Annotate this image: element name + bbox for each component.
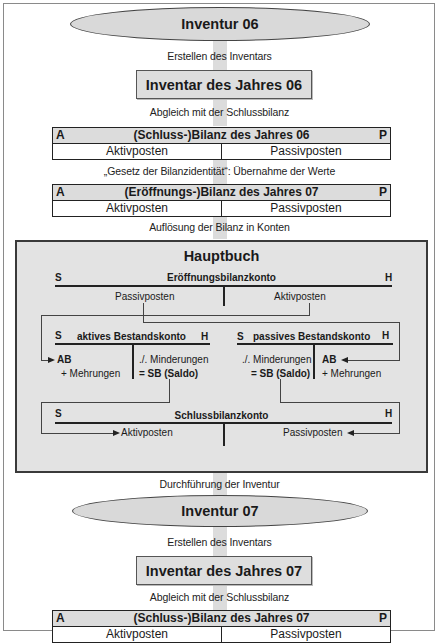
- connector-aktiv-line: [41, 315, 310, 316]
- passiva-marker: P: [379, 611, 387, 625]
- connector-passiv-line: [143, 322, 400, 323]
- connector-sb-aktiv-line: [169, 379, 170, 403]
- step-erstellen-inventar-2: Erstellen des Inventars: [0, 536, 439, 548]
- pbk-ab: AB: [322, 354, 336, 365]
- bilanz-title: (Eröffnungs-)Bilanz des Jahres 07: [53, 185, 390, 199]
- ebk-t-vertical: [223, 287, 225, 306]
- inventur-07-ellipse: Inventur 07: [72, 495, 368, 527]
- bilanz-row: Aktivposten Passivposten: [53, 201, 390, 216]
- passiva-marker: P: [379, 128, 387, 142]
- ebk-title: Eröffnungsbilanzkonto: [17, 272, 426, 283]
- step-abgleich-1: Abgleich mit der Schlussbilanz: [0, 106, 439, 118]
- step-bilanzidentitaet: „Gesetz der Bilanzidentität“: Übernahme …: [0, 165, 439, 177]
- step-erstellen-inventar-1: Erstellen des Inventars: [0, 50, 439, 62]
- abk-minderungen: ./. Minderungen: [139, 354, 209, 365]
- inventar-07-box: Inventar des Jahres 07: [136, 556, 312, 585]
- sbk-h-marker: H: [385, 408, 392, 419]
- connector-sb-aktiv-line: [41, 433, 117, 434]
- step-abgleich-2: Abgleich mit der Schlussbilanz: [0, 591, 439, 603]
- connector-aktiv-line: [41, 315, 42, 361]
- bilanz-header: A (Eröffnungs-)Bilanz des Jahres 07 P: [53, 185, 390, 201]
- ebk-passivposten: Passivposten: [115, 291, 174, 302]
- pbk-mehrungen: + Mehrungen: [322, 368, 381, 379]
- abk-s-marker: S: [55, 330, 62, 341]
- bilanz-header: A (Schluss-)Bilanz des Jahres 07 P: [53, 611, 390, 627]
- inventar-06-label: Inventar des Jahres 06: [146, 77, 302, 93]
- inventur-06-ellipse: Inventur 06: [70, 7, 370, 41]
- connector-sb-aktiv-line: [41, 402, 170, 403]
- ebk-h-marker: H: [385, 272, 392, 283]
- sbk-aktivposten: Aktivposten: [121, 427, 173, 438]
- connector-sb-passiv-line: [280, 379, 281, 403]
- bilanz-schluss-07: A (Schluss-)Bilanz des Jahres 07 P Aktiv…: [52, 610, 391, 643]
- pbk-h-marker: H: [382, 330, 389, 341]
- abk-t-vertical: [132, 345, 134, 379]
- abk-ab: AB: [57, 354, 71, 365]
- aktivposten-cell: Aktivposten: [53, 627, 221, 642]
- bilanz-header: A (Schluss-)Bilanz des Jahres 06 P: [53, 128, 390, 144]
- pbk-saldo: = SB (Saldo): [251, 368, 310, 379]
- hauptbuch-panel: Hauptbuch S Eröffnungsbilanzkonto H Pass…: [15, 240, 428, 473]
- arrow-left-icon: [347, 430, 354, 436]
- passivposten-cell: Passivposten: [221, 144, 390, 159]
- pbk-minderungen: ./. Minderungen: [242, 354, 312, 365]
- abk-title: aktives Bestandskonto: [77, 331, 186, 342]
- bilanz-schluss-06: A (Schluss-)Bilanz des Jahres 06 P Aktiv…: [52, 127, 391, 160]
- bilanz-title: (Schluss-)Bilanz des Jahres 07: [53, 611, 390, 625]
- sbk-passivposten: Passivposten: [283, 427, 342, 438]
- bilanz-eroeffnung-07: A (Eröffnungs-)Bilanz des Jahres 07 P Ak…: [52, 184, 391, 217]
- inventar-06-box: Inventar des Jahres 06: [136, 70, 312, 99]
- connector-passiv-line: [143, 303, 144, 323]
- bilanz-row: Aktivposten Passivposten: [53, 627, 390, 642]
- arrow-right-icon: [48, 357, 55, 363]
- arrow-right-icon: [113, 430, 120, 436]
- connector-sb-passiv-line: [353, 433, 400, 434]
- step-durchfuehrung-inventur: Durchführung der Inventur: [0, 478, 439, 490]
- pbk-t-horizontal: [237, 343, 393, 345]
- abk-mehrungen: + Mehrungen: [61, 368, 120, 379]
- passivposten-cell: Passivposten: [221, 201, 390, 216]
- sbk-title: Schlussbilanzkonto: [17, 410, 426, 421]
- passiva-marker: P: [379, 185, 387, 199]
- inventar-07-label: Inventar des Jahres 07: [146, 563, 302, 579]
- step-aufloesung: Auflösung der Bilanz in Konten: [0, 221, 439, 233]
- aktivposten-cell: Aktivposten: [53, 144, 221, 159]
- pbk-s-marker: S: [237, 331, 244, 342]
- bilanz-row: Aktivposten Passivposten: [53, 144, 390, 159]
- sbk-t-vertical: [223, 424, 225, 446]
- aktivposten-cell: Aktivposten: [53, 201, 221, 216]
- arrow-left-icon: [341, 357, 348, 363]
- inventur-07-label: Inventur 07: [181, 503, 258, 519]
- inventur-06-label: Inventur 06: [181, 16, 258, 32]
- pbk-t-vertical: [313, 345, 315, 379]
- passivposten-cell: Passivposten: [221, 627, 390, 642]
- ebk-aktivposten: Aktivposten: [274, 291, 326, 302]
- bilanz-title: (Schluss-)Bilanz des Jahres 06: [53, 128, 390, 142]
- hauptbuch-title: Hauptbuch: [17, 248, 426, 264]
- connector-sb-passiv-line: [280, 402, 400, 403]
- connector-passiv-line: [399, 322, 400, 361]
- pbk-title: passives Bestandskonto: [253, 331, 370, 342]
- abk-h-marker: H: [201, 331, 208, 342]
- connector-passiv-line: [347, 360, 400, 361]
- abk-saldo: = SB (Saldo): [139, 368, 198, 379]
